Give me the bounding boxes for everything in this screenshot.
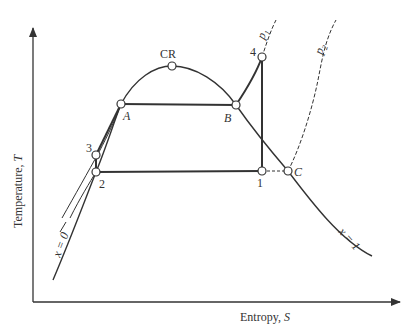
label-4: 4 <box>250 45 256 59</box>
p2-left-dash <box>60 222 66 232</box>
point-2 <box>92 168 100 176</box>
point-1 <box>258 167 266 175</box>
point-CR <box>168 62 176 70</box>
ts-diagram: CR A B 1 2 3 4 C p1 p2 x = 0 x = 1 Tempe… <box>0 0 416 334</box>
x-axis-label: Entropy, S <box>240 310 290 324</box>
label-B: B <box>224 111 232 125</box>
y-axis-label: Temperature, T <box>11 154 25 228</box>
point-4 <box>258 53 266 61</box>
svg-text:Temperature, T: Temperature, T <box>11 154 25 228</box>
saturated-liquid-line <box>53 66 372 280</box>
label-p1: p1 <box>253 27 272 43</box>
label-2: 2 <box>99 177 105 191</box>
svg-text:x = 0: x = 0 <box>49 230 71 260</box>
label-CR: CR <box>160 47 176 61</box>
label-C: C <box>294 165 303 179</box>
label-3: 3 <box>86 141 92 155</box>
process-3-A <box>96 104 121 155</box>
p2-isobar <box>288 20 336 171</box>
process-B-4 <box>236 57 262 105</box>
point-A <box>117 100 125 108</box>
p2-compressed-liquid-curve <box>70 172 96 218</box>
point-3 <box>92 151 100 159</box>
label-p2: p2 <box>311 42 330 57</box>
svg-text:p2: p2 <box>311 42 330 57</box>
label-A: A <box>122 109 131 123</box>
point-C <box>284 167 292 175</box>
point-B <box>232 101 240 109</box>
svg-text:p1: p1 <box>253 27 272 43</box>
process-1-2 <box>96 171 262 172</box>
label-x0: x = 0 <box>49 230 71 260</box>
label-1: 1 <box>257 176 263 190</box>
process-A-B <box>121 104 236 105</box>
